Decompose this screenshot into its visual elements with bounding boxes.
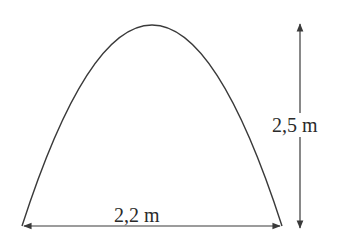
width-label: 2,2 m (112, 205, 162, 225)
height-label: 2,5 m (272, 113, 318, 137)
parabola-arch-curve (22, 25, 282, 226)
